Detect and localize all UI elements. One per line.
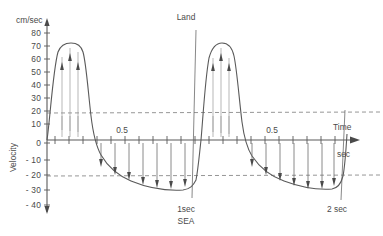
peak1-annotations	[60, 48, 80, 137]
y-axis-arrow-down-icon	[44, 206, 49, 214]
y-tick-70: 70	[31, 41, 41, 51]
y-tick-20: 20	[31, 106, 41, 116]
x-axis-ticks	[55, 136, 335, 144]
down-arrow-icon	[127, 143, 131, 180]
down-arrow-icon	[278, 143, 282, 181]
peak2-up-arrow-2-icon	[219, 53, 223, 61]
velocity-time-chart: 80 70 60 50 40 30 20 10 0 - 10 - 20 - 30…	[0, 0, 383, 236]
down-arrow-icon	[320, 143, 324, 189]
trough1-down-arrows	[99, 143, 187, 189]
trough2-down-arrows	[250, 143, 336, 189]
peak2-up-arrow-1-icon	[211, 63, 215, 71]
y-axis-tick-labels: 80 70 60 50 40 30 20 10 0 - 10 - 20 - 30…	[26, 28, 41, 210]
reference-line-plus20	[47, 112, 381, 113]
y-tick-0: 0	[36, 138, 41, 148]
down-arrow-icon	[183, 143, 187, 187]
y-tick-30: 30	[31, 93, 41, 103]
x-axis-title: Time	[333, 122, 352, 132]
region-label-land: Land	[177, 12, 196, 22]
down-arrow-icon	[250, 143, 254, 167]
down-arrow-icon	[155, 143, 159, 188]
y-tick-10: 10	[31, 119, 41, 129]
down-arrow-icon	[306, 143, 310, 189]
y-axis-arrow-icon	[44, 18, 49, 26]
peak1-up-arrow-3-icon	[76, 62, 80, 70]
marker-label-1sec: 1sec	[177, 204, 195, 214]
y-tick-80: 80	[31, 28, 41, 38]
y-tick-n40: - 40	[26, 200, 41, 210]
x-tick-label-half-2: 0.5	[266, 125, 278, 135]
y-axis-title: Velocity	[8, 142, 18, 172]
y-axis	[44, 18, 49, 214]
y-axis-unit-label: cm/sec	[16, 15, 43, 25]
region-label-sea: SEA	[178, 216, 195, 226]
down-arrow-icon	[99, 143, 103, 167]
y-tick-50: 50	[31, 67, 41, 77]
down-arrow-icon	[141, 143, 145, 185]
reference-line-minus20	[47, 175, 381, 176]
peak2-up-arrow-3-icon	[227, 63, 231, 71]
y-tick-n30: - 30	[26, 185, 41, 195]
y-tick-40: 40	[31, 80, 41, 90]
x-tick-label-half-1: 0.5	[116, 125, 128, 135]
y-tick-n20: - 20	[26, 170, 41, 180]
y-tick-60: 60	[31, 54, 41, 64]
down-arrow-icon	[332, 143, 336, 186]
x-axis	[47, 137, 360, 144]
down-arrow-icon	[292, 143, 296, 186]
peak1-up-arrow-2-icon	[68, 53, 72, 61]
y-tick-n10: - 10	[26, 155, 41, 165]
down-arrow-icon	[169, 143, 173, 189]
velocity-curve	[47, 43, 347, 190]
peak2-annotations	[211, 48, 231, 137]
x-axis-arrow-icon	[350, 137, 360, 144]
chart-svg: 80 70 60 50 40 30 20 10 0 - 10 - 20 - 30…	[0, 0, 383, 236]
marker-line-1sec	[192, 30, 196, 198]
marker-label-2sec: 2 sec	[327, 204, 347, 214]
peak1-up-arrow-1-icon	[60, 62, 64, 70]
